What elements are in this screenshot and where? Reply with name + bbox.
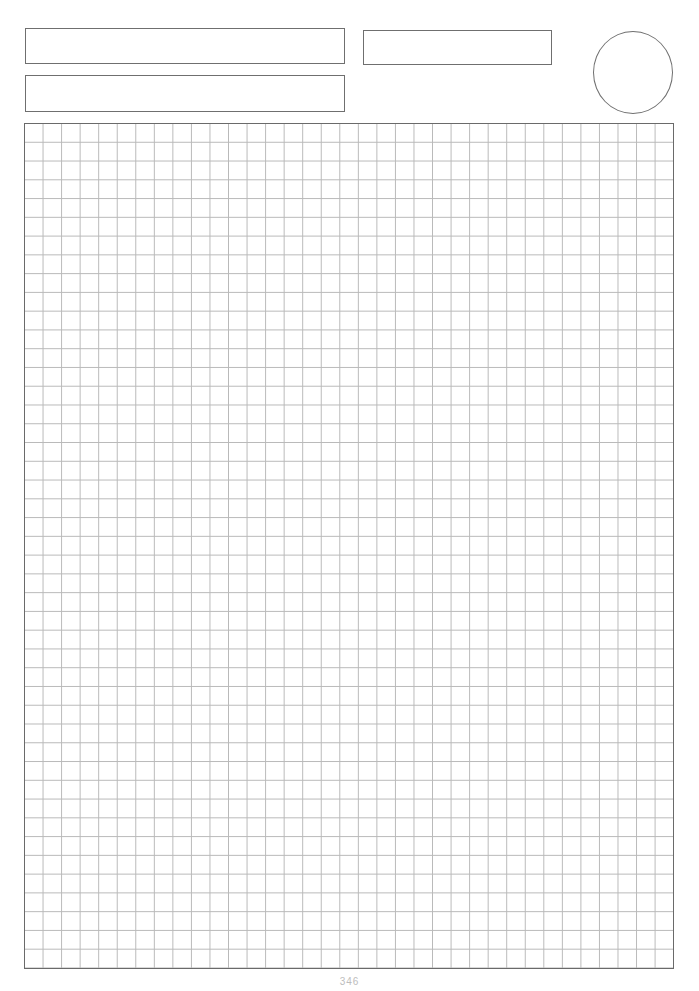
- graph-paper-grid: [24, 123, 674, 969]
- class-field[interactable]: [25, 75, 345, 112]
- page-number: 346: [0, 976, 699, 987]
- date-field[interactable]: [363, 30, 552, 65]
- name-field[interactable]: [25, 28, 345, 64]
- score-circle[interactable]: [593, 31, 673, 114]
